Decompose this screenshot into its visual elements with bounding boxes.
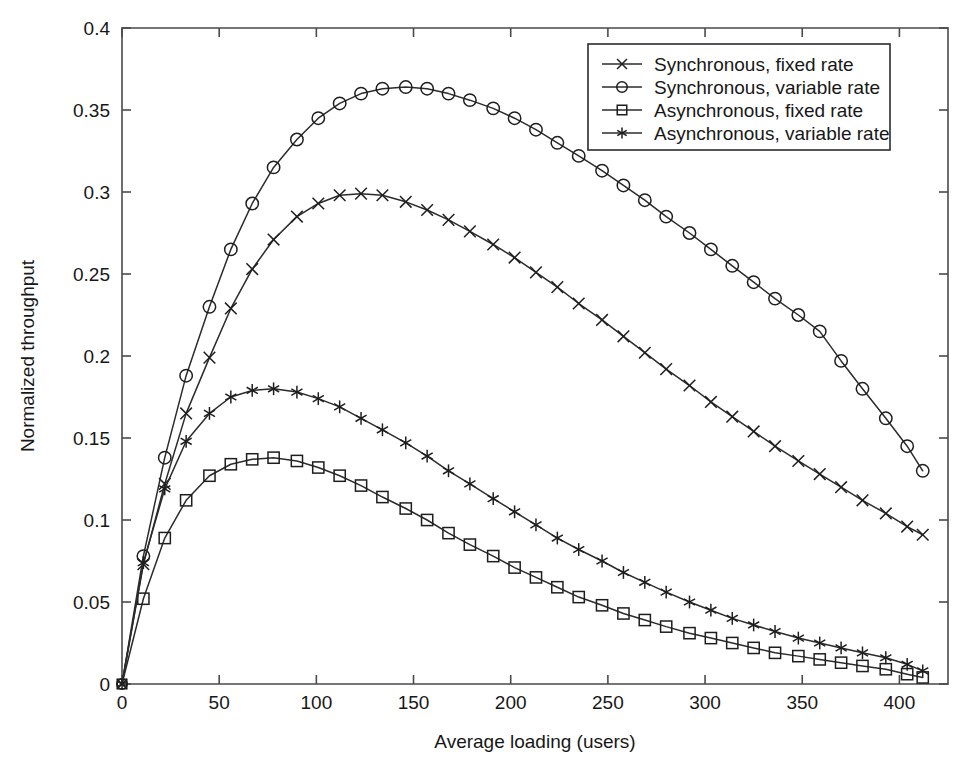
data-marker-x <box>573 298 585 310</box>
data-marker-* <box>727 612 738 625</box>
data-marker-* <box>639 576 650 589</box>
data-marker-x <box>917 529 929 541</box>
data-marker-x <box>464 226 476 238</box>
data-marker-* <box>917 664 928 677</box>
chart-figure: 05010015020025030035040000.050.10.150.20… <box>0 0 972 765</box>
data-marker-x <box>530 267 542 279</box>
data-marker-* <box>814 637 825 650</box>
series-line <box>122 194 923 684</box>
data-marker-x <box>618 331 630 343</box>
legend-label-1: Synchronous, variable rate <box>654 77 880 98</box>
data-marker-x <box>769 440 781 452</box>
legend-label-2: Asynchronous, fixed rate <box>654 100 863 121</box>
y-tick-label: 0.35 <box>73 100 110 121</box>
data-marker-* <box>488 492 499 505</box>
y-tick-label: 0.1 <box>84 510 110 531</box>
data-marker-x <box>312 198 324 210</box>
data-marker-x <box>596 314 608 326</box>
data-marker-* <box>509 505 520 518</box>
data-marker-* <box>857 646 868 659</box>
data-marker-* <box>422 450 433 463</box>
data-marker-* <box>769 625 780 638</box>
series-1 <box>117 81 929 689</box>
y-tick-label: 0.4 <box>84 18 111 39</box>
data-marker-x <box>204 352 216 364</box>
data-marker-x <box>726 411 738 423</box>
data-marker-x <box>225 303 237 315</box>
y-tick-label: 0 <box>99 674 110 695</box>
data-marker-x <box>421 204 433 216</box>
chart-legend: Synchronous, fixed rateSynchronous, vari… <box>588 44 890 150</box>
data-marker-x <box>291 211 303 223</box>
data-marker-* <box>618 566 629 579</box>
data-marker-x <box>901 521 913 533</box>
data-marker-* <box>597 555 608 568</box>
x-tick-label: 400 <box>884 692 916 713</box>
data-marker-* <box>573 543 584 556</box>
data-marker-x <box>487 239 499 251</box>
x-tick-label: 300 <box>689 692 721 713</box>
data-marker-x <box>552 281 564 293</box>
data-marker-* <box>836 642 847 655</box>
data-marker-x <box>443 214 455 226</box>
data-marker-x <box>509 252 521 264</box>
y-tick-label: 0.3 <box>84 182 110 203</box>
series-2 <box>117 452 928 689</box>
x-tick-label: 150 <box>398 692 430 713</box>
data-marker-x <box>880 508 892 520</box>
data-marker-x <box>180 408 192 420</box>
data-marker-x <box>246 263 258 275</box>
data-marker-x <box>684 380 696 392</box>
series-0 <box>117 188 928 689</box>
data-marker-* <box>793 632 804 645</box>
data-marker-* <box>748 619 759 632</box>
data-marker-* <box>661 586 672 599</box>
data-marker-x <box>639 347 651 359</box>
data-marker-x <box>268 234 280 246</box>
data-marker-x <box>748 426 760 438</box>
x-tick-label: 200 <box>495 692 527 713</box>
x-tick-label: 0 <box>117 692 128 713</box>
data-marker-* <box>684 596 695 609</box>
x-tick-label: 100 <box>301 692 333 713</box>
data-marker-* <box>334 400 345 413</box>
data-marker-* <box>880 651 891 664</box>
data-marker-x <box>835 481 847 493</box>
data-marker-* <box>400 437 411 450</box>
data-marker-* <box>530 519 541 532</box>
data-marker-* <box>464 478 475 491</box>
data-marker-* <box>705 604 716 617</box>
data-marker-* <box>313 392 324 405</box>
data-marker-* <box>225 391 236 404</box>
data-marker-x <box>857 495 869 507</box>
legend-label-3: Asynchronous, variable rate <box>654 123 890 144</box>
line-chart: 05010015020025030035040000.050.10.150.20… <box>0 0 972 765</box>
x-tick-label: 350 <box>786 692 818 713</box>
y-tick-label: 0.2 <box>84 346 110 367</box>
y-tick-label: 0.05 <box>73 592 110 613</box>
data-marker-* <box>377 423 388 436</box>
x-axis-title: Average loading (users) <box>434 731 635 752</box>
y-tick-label: 0.15 <box>73 428 110 449</box>
data-marker-x <box>793 455 805 467</box>
data-series-group <box>117 81 929 690</box>
series-3 <box>117 382 928 689</box>
x-tick-label: 50 <box>209 692 230 713</box>
data-marker-x <box>660 363 672 375</box>
data-marker-* <box>552 532 563 545</box>
y-axis-title: Normalized throughput <box>17 259 38 452</box>
data-marker-x <box>705 396 717 408</box>
x-tick-label: 250 <box>592 692 624 713</box>
legend-label-0: Synchronous, fixed rate <box>654 54 854 75</box>
data-marker-x <box>814 468 826 480</box>
data-marker-* <box>356 412 367 425</box>
y-tick-label: 0.25 <box>73 264 110 285</box>
data-marker-x <box>400 196 412 208</box>
data-marker-* <box>443 464 454 477</box>
series-line <box>122 87 923 684</box>
